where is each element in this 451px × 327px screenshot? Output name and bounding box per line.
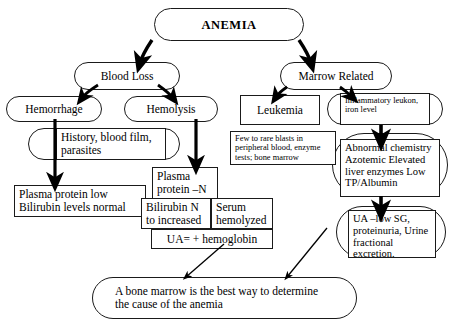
node-plasma-protein-low-label: Plasma protein low Bilirubin levels norm… <box>19 188 126 213</box>
node-leukemia[interactable]: Leukemia <box>240 95 320 125</box>
node-anemia[interactable]: ANEMIA <box>154 8 304 41</box>
flowchart-canvas: ANEMIA Blood Loss Marrow Related Hemorrh… <box>0 0 451 327</box>
node-ua-hemoglobin[interactable]: UA= + hemoglobin <box>151 229 273 249</box>
node-bilirubin-label: Bilirubin N to increased <box>146 201 201 226</box>
node-blood-loss-label: Blood Loss <box>101 70 154 83</box>
node-history-label: History, blood film, parasites <box>61 131 152 156</box>
node-blasts[interactable]: Few to rare blasts in peripheral blood, … <box>230 131 336 165</box>
node-abnormal-chemistry[interactable]: Abnormal chemistry Azotemic Elevated liv… <box>340 139 440 197</box>
node-inflammatory-label: Inflammatory leukon, iron level <box>345 96 418 114</box>
arrow-right-branch-to-conclusion <box>287 228 327 277</box>
node-leukemia-label: Leukemia <box>257 104 303 117</box>
node-serum-hemolyzed-label: Serum hemolyzed <box>216 201 266 226</box>
node-plasma-protein-low[interactable]: Plasma protein low Bilirubin levels norm… <box>14 185 146 217</box>
node-conclusion[interactable]: A bone marrow is the best way to determi… <box>92 277 357 319</box>
arrow-anemia-to-marrow <box>299 40 311 63</box>
node-plasma-protein-n[interactable]: Plasma protein –N <box>152 167 218 199</box>
node-ua-hemoglobin-label: UA= + hemoglobin <box>167 233 257 246</box>
node-urinalysis[interactable]: UA –low SG, proteinuria, Urine fractiona… <box>348 210 436 258</box>
node-plasma-protein-n-label: Plasma protein –N <box>157 170 207 195</box>
node-anemia-label: ANEMIA <box>201 18 256 32</box>
node-bilirubin[interactable]: Bilirubin N to increased <box>141 198 211 229</box>
arrow-anemia-to-blood-loss <box>140 40 152 63</box>
node-hemorrhage-label: Hemorrhage <box>25 103 82 116</box>
node-blood-loss[interactable]: Blood Loss <box>74 62 180 90</box>
node-marrow-related[interactable]: Marrow Related <box>280 62 392 90</box>
node-hemolysis-label: Hemolysis <box>146 103 195 116</box>
node-urinalysis-label: UA –low SG, proteinuria, Urine fractiona… <box>353 213 428 259</box>
node-hemolysis[interactable]: Hemolysis <box>124 96 218 122</box>
node-serum-hemolyzed[interactable]: Serum hemolyzed <box>211 198 273 229</box>
node-inflammatory[interactable]: Inflammatory leukon, iron level <box>340 93 430 125</box>
node-marrow-related-label: Marrow Related <box>298 70 373 83</box>
node-conclusion-label: A bone marrow is the best way to determi… <box>115 285 334 311</box>
node-history[interactable]: History, blood film, parasites <box>56 128 166 160</box>
node-hemorrhage[interactable]: Hemorrhage <box>6 96 102 122</box>
node-abnormal-chemistry-label: Abnormal chemistry Azotemic Elevated liv… <box>345 142 432 188</box>
node-blasts-label: Few to rare blasts in peripheral blood, … <box>235 134 320 162</box>
